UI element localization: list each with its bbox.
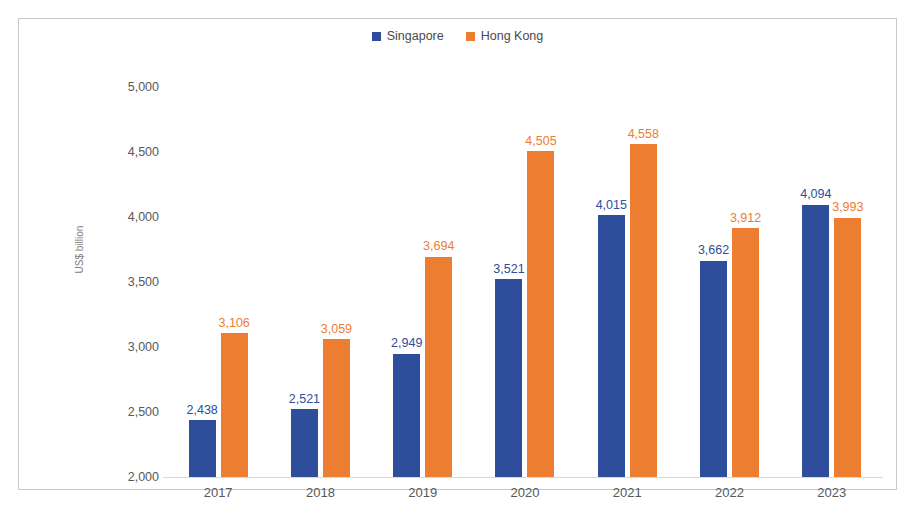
bar-group-2021: 4,0154,558 <box>576 87 678 477</box>
legend-swatch-icon <box>372 32 381 41</box>
x-axis-line <box>163 477 883 478</box>
bar-rect[interactable] <box>425 257 452 477</box>
bar-hong-kong-2022[interactable]: 3,912 <box>732 87 759 477</box>
legend-entry-hong-kong[interactable]: Hong Kong <box>466 29 544 43</box>
bar-rect[interactable] <box>802 205 829 477</box>
y-axis-tick-label: 4,000 <box>128 210 159 224</box>
bar-value-label: 4,094 <box>800 188 831 201</box>
y-axis-tick-label: 2,500 <box>128 405 159 419</box>
bar-rect[interactable] <box>598 215 625 477</box>
bar-value-label: 2,949 <box>391 337 422 350</box>
bar-rect[interactable] <box>291 409 318 477</box>
bar-hong-kong-2021[interactable]: 4,558 <box>630 87 657 477</box>
bar-group-2023: 4,0943,993 <box>781 87 883 477</box>
legend-label: Hong Kong <box>481 29 544 43</box>
bar-rect[interactable] <box>189 420 216 477</box>
y-axis-title: US$ billion <box>74 205 85 295</box>
bar-value-label: 4,558 <box>628 128 659 141</box>
x-axis-tick-label: 2023 <box>781 485 883 500</box>
x-axis-tick-label: 2020 <box>474 485 576 500</box>
bar-rect[interactable] <box>630 144 657 477</box>
bar-singapore-2023[interactable]: 4,094 <box>802 87 829 477</box>
y-axis-tick-label: 4,500 <box>128 145 159 159</box>
bar-value-label: 3,694 <box>423 240 454 253</box>
bar-value-label: 3,059 <box>321 323 352 336</box>
bar-group-2022: 3,6623,912 <box>678 87 780 477</box>
bar-rect[interactable] <box>527 151 554 477</box>
bar-singapore-2019[interactable]: 2,949 <box>393 87 420 477</box>
bar-groups: 2,4383,1062,5213,0592,9493,6943,5214,505… <box>167 87 883 477</box>
bar-rect[interactable] <box>732 228 759 477</box>
bar-value-label: 2,521 <box>289 393 320 406</box>
x-axis-tick-label: 2021 <box>576 485 678 500</box>
bar-value-label: 4,505 <box>525 135 556 148</box>
bar-value-label: 4,015 <box>596 199 627 212</box>
bar-rect[interactable] <box>495 279 522 477</box>
y-axis-tick-label: 3,500 <box>128 275 159 289</box>
bar-hong-kong-2023[interactable]: 3,993 <box>834 87 861 477</box>
bar-value-label: 3,912 <box>730 212 761 225</box>
bar-group-2020: 3,5214,505 <box>474 87 576 477</box>
bar-rect[interactable] <box>700 261 727 477</box>
bar-rect[interactable] <box>393 354 420 477</box>
bar-rect[interactable] <box>221 333 248 477</box>
bar-singapore-2020[interactable]: 3,521 <box>495 87 522 477</box>
x-axis-tick-label: 2022 <box>678 485 780 500</box>
legend-label: Singapore <box>387 29 444 43</box>
y-axis-tick-label: 5,000 <box>128 80 159 94</box>
bar-group-2018: 2,5213,059 <box>269 87 371 477</box>
bar-hong-kong-2018[interactable]: 3,059 <box>323 87 350 477</box>
bar-singapore-2017[interactable]: 2,438 <box>189 87 216 477</box>
x-axis-tick-labels: 2017201820192020202120222023 <box>167 485 883 500</box>
bar-singapore-2018[interactable]: 2,521 <box>291 87 318 477</box>
x-axis-tick-label: 2017 <box>167 485 269 500</box>
x-axis-tick-label: 2018 <box>269 485 371 500</box>
y-axis-tick-label: 3,000 <box>128 340 159 354</box>
bar-rect[interactable] <box>323 339 350 477</box>
legend-swatch-icon <box>466 32 475 41</box>
bar-group-2019: 2,9493,694 <box>372 87 474 477</box>
y-axis-tick-labels: 5,0004,5004,0003,5003,0002,5002,000 <box>107 87 159 477</box>
bar-value-label: 2,438 <box>187 404 218 417</box>
bar-value-label: 3,662 <box>698 244 729 257</box>
bar-rect[interactable] <box>834 218 861 477</box>
bar-value-label: 3,993 <box>832 201 863 214</box>
bar-singapore-2022[interactable]: 3,662 <box>700 87 727 477</box>
bar-value-label: 3,106 <box>219 317 250 330</box>
bar-value-label: 3,521 <box>493 263 524 276</box>
y-axis-tick-label: 2,000 <box>128 470 159 484</box>
bar-group-2017: 2,4383,106 <box>167 87 269 477</box>
bar-singapore-2021[interactable]: 4,015 <box>598 87 625 477</box>
chart-frame: SingaporeHong Kong US$ billion 5,0004,50… <box>18 18 897 490</box>
bar-hong-kong-2019[interactable]: 3,694 <box>425 87 452 477</box>
bar-hong-kong-2017[interactable]: 3,106 <box>221 87 248 477</box>
legend-entry-singapore[interactable]: Singapore <box>372 29 444 43</box>
x-axis-tick-label: 2019 <box>372 485 474 500</box>
bar-hong-kong-2020[interactable]: 4,505 <box>527 87 554 477</box>
chart-legend: SingaporeHong Kong <box>19 29 896 43</box>
